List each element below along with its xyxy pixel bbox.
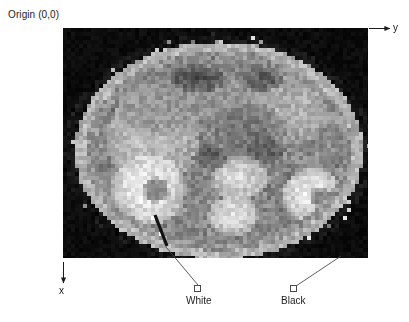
scan-image	[63, 28, 368, 258]
white-marker-swatch	[194, 285, 201, 292]
x-axis-label: x	[59, 285, 64, 296]
white-marker-label: White	[186, 295, 212, 307]
black-marker-swatch	[290, 285, 297, 292]
pixelated-scan-figure: Origin (0,0) y x White Black	[0, 0, 409, 322]
y-axis-label: y	[393, 22, 398, 33]
black-marker-leader	[296, 256, 341, 286]
black-marker-label: Black	[281, 295, 305, 307]
origin-label: Origin (0,0)	[8, 9, 59, 21]
